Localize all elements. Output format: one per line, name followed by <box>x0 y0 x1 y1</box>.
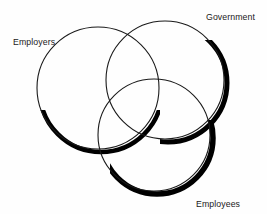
venn-label-employers: Employers <box>13 36 55 47</box>
venn-diagram-canvas <box>0 0 267 214</box>
venn-label-government: Government <box>206 11 255 22</box>
venn-diagram: Employers Government Employees <box>0 0 267 214</box>
venn-outline-layer <box>37 21 224 191</box>
venn-label-employees: Employees <box>196 198 240 209</box>
